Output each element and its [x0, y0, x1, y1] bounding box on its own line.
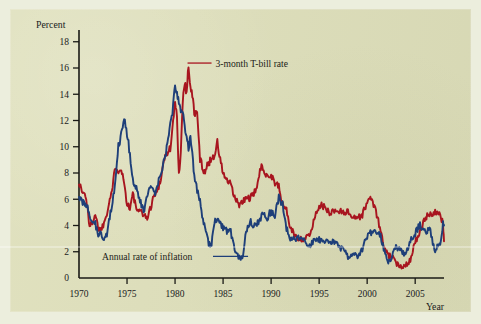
x-tick-label: 1980	[166, 289, 185, 299]
tbill-annotation-label: 3-month T-bill rate	[216, 58, 288, 69]
x-axis-title: Year	[426, 301, 445, 312]
y-tick-label: 4	[64, 221, 69, 231]
y-tick-label: 8	[64, 168, 69, 178]
inflation-annotation-label: Annual rate of inflation	[102, 251, 193, 262]
y-axis-title: Percent	[36, 19, 66, 30]
y-tick-label: 2	[64, 247, 69, 257]
series-line-inflation	[79, 85, 444, 263]
y-tick-label: 12	[60, 116, 70, 126]
x-tick-label: 2000	[358, 289, 377, 299]
y-axis-ticks: 024681012141618	[60, 37, 80, 283]
x-tick-label: 1970	[70, 289, 89, 299]
line-chart: Percent 024681012141618 1970197519801985…	[0, 0, 481, 324]
series-line-tbill	[79, 67, 444, 268]
figure-container: Percent 024681012141618 1970197519801985…	[0, 0, 481, 324]
y-tick-label: 6	[64, 195, 69, 205]
x-axis-ticks: 19701975198019851990199520002005	[70, 278, 425, 299]
series-lines	[79, 67, 444, 268]
y-tick-label: 0	[64, 273, 69, 283]
x-tick-label: 2005	[406, 289, 425, 299]
x-tick-label: 1975	[118, 289, 137, 299]
x-tick-label: 1985	[214, 289, 233, 299]
x-tick-label: 1990	[262, 289, 281, 299]
y-tick-label: 14	[60, 90, 70, 100]
y-tick-label: 16	[60, 63, 70, 73]
y-tick-label: 18	[60, 37, 70, 47]
x-tick-label: 1995	[310, 289, 329, 299]
y-tick-label: 10	[60, 142, 70, 152]
